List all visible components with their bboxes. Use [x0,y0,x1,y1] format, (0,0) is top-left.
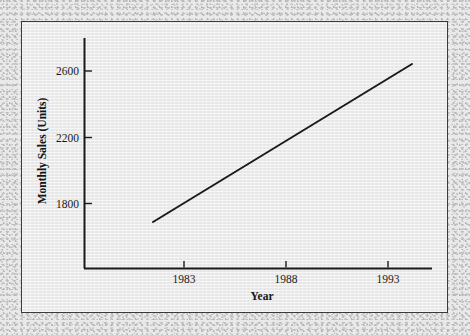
x-axis-title: Year [251,290,274,302]
x-tick-label-1983: 1983 [173,273,196,285]
y-tick-label-1800: 1800 [56,198,79,210]
y-axis-ticks [85,71,92,204]
y-tick-label-2200: 2200 [56,132,79,144]
x-tick-label-1988: 1988 [275,273,298,285]
x-axis-ticks [184,261,388,268]
y-tick-label-2600: 2600 [56,65,79,77]
chart-screenshot: 2600 2200 1800 1983 1988 1993 Year Month… [0,0,470,335]
line-chart: 2600 2200 1800 1983 1988 1993 Year Month… [0,0,470,335]
x-tick-label-1993: 1993 [377,273,400,285]
y-axis-title: Monthly Sales (Units) [36,97,49,204]
series-line-monthly-sales [153,64,412,222]
